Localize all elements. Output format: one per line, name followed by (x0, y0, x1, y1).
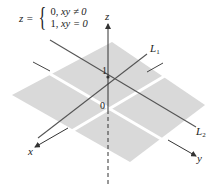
z-one-label: 1 (102, 66, 107, 76)
y-axis-label: y (197, 153, 202, 164)
case-row: 1, xy = 0 (50, 18, 87, 30)
L2-label: L2 (196, 126, 206, 139)
piecewise-formula: z = { 0, xy ≠ 0 1, xy = 0 (19, 4, 88, 31)
brace-icon: { (39, 4, 47, 31)
z-axis-label: z (105, 11, 109, 22)
formula-cases: 0, xy ≠ 0 1, xy = 0 (50, 6, 87, 30)
formula-lhs: z = (19, 12, 33, 24)
origin-label: 0 (100, 101, 105, 111)
y-axis (168, 140, 196, 156)
x-axis-label: x (28, 146, 33, 157)
L1-label: L1 (150, 43, 160, 56)
case-row: 0, xy ≠ 0 (50, 6, 87, 18)
